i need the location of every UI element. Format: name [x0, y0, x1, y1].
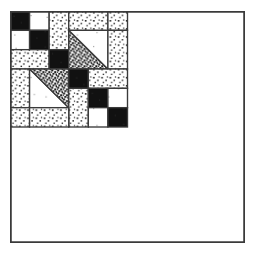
patch-light-print-right-lower [88, 69, 127, 88]
patch-black-lower-right [88, 88, 108, 107]
patch-light-print-right-mid [108, 30, 128, 69]
patch-black-center-lower [69, 69, 89, 88]
patch-light-print-bottom-center [30, 108, 69, 127]
patch-black-r1c1 [10, 11, 30, 30]
patch-light-print-right-column [108, 11, 128, 30]
patch-black-r2c2 [30, 30, 50, 49]
figure-canvas [0, 0, 256, 253]
patch-light-print-top-right-upper [69, 11, 108, 30]
patch-black-center-upper [49, 50, 69, 69]
patch-light-print-bottom-left [10, 108, 30, 127]
patch-white-r2c1 [10, 30, 30, 49]
patch-black-bottom-right-corner [108, 108, 128, 127]
quilt-block-svg [10, 11, 245, 243]
patch-light-print-left-lower [10, 69, 30, 108]
patch-white-bottom-right-inner [88, 108, 108, 127]
quilt-block [10, 11, 245, 243]
patch-light-print-center-bottom [69, 88, 89, 127]
patch-light-print-top-center [49, 11, 69, 50]
patch-white-lower-right [108, 88, 128, 107]
patch-layer [10, 11, 128, 127]
patch-white-r1c2 [30, 11, 50, 30]
patch-light-print-left-mid [10, 50, 49, 69]
